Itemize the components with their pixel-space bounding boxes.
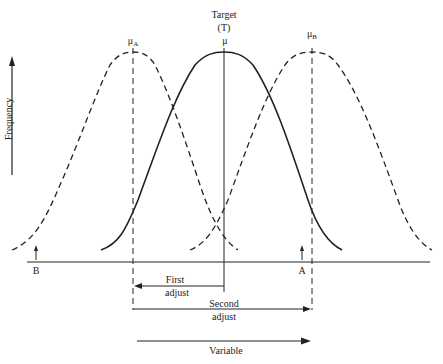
first-adjust-line2: adjust — [165, 287, 189, 298]
marker-a-label: A — [298, 265, 305, 276]
curve-target — [101, 52, 342, 250]
mu-b-subscript: B — [312, 33, 317, 41]
marker-b-label: B — [33, 265, 40, 276]
frequency-label: Frequency — [3, 98, 14, 140]
second-adjust-line2: adjust — [212, 311, 236, 322]
marker-a-arrow-head — [300, 245, 304, 251]
target-label-line2: (T) — [218, 22, 231, 33]
first-adjust-arrow-head — [134, 283, 142, 289]
target-label-line1: Target — [211, 9, 236, 20]
curve-a — [12, 52, 238, 250]
frequency-arrow-head — [9, 56, 15, 66]
second-adjust-arrow-head — [303, 306, 311, 312]
first-adjust-line1: First — [166, 274, 184, 285]
process-shift-diagram — [0, 0, 443, 364]
target-mu-label: μ — [222, 35, 227, 46]
second-adjust-line1: Second — [209, 298, 238, 309]
mu-a-subscript: A — [133, 40, 138, 48]
mu-b-label: μB — [307, 28, 317, 43]
variable-label: Variable — [209, 345, 242, 356]
variable-arrow-head — [301, 338, 311, 345]
mu-a-label: μA — [128, 35, 138, 50]
marker-b-arrow-head — [34, 245, 38, 251]
curve-b — [190, 52, 432, 250]
